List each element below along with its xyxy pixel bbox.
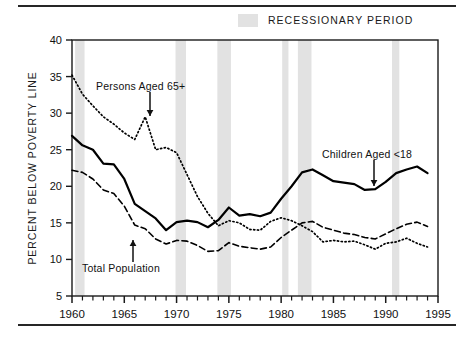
y-tick-label-25: 25 xyxy=(50,144,62,156)
recession-band-5 xyxy=(392,40,399,296)
y-tick-label-40: 40 xyxy=(50,34,62,46)
x-tick-label-1990: 1990 xyxy=(373,308,399,320)
annotation-children-under-18: Children Aged <18 xyxy=(322,148,412,160)
y-tick-label-20: 20 xyxy=(50,180,62,192)
y-tick-label-15: 15 xyxy=(50,217,62,229)
arrow-total-population-head xyxy=(130,240,137,246)
plot-canvas: 4035302520151051960196519701975198019851… xyxy=(0,0,474,339)
recession-band-2 xyxy=(217,40,231,296)
y-tick-label-35: 35 xyxy=(50,71,62,83)
recession-band-0 xyxy=(75,40,84,296)
y-tick-label-10: 10 xyxy=(50,253,62,265)
x-tick-label-1975: 1975 xyxy=(216,308,242,320)
x-tick-label-1965: 1965 xyxy=(111,308,137,320)
annotation-total-population: Total Population xyxy=(82,262,160,274)
y-tick-label-5: 5 xyxy=(56,290,62,302)
recession-band-4 xyxy=(298,40,312,296)
x-tick-label-1995: 1995 xyxy=(425,308,451,320)
x-tick-label-1980: 1980 xyxy=(268,308,294,320)
plot-frame xyxy=(72,40,438,296)
y-tick-label-30: 30 xyxy=(50,107,62,119)
arrow-children-under-18-head xyxy=(371,180,378,186)
arrow-persons-65-plus-head xyxy=(147,110,154,116)
x-tick-label-1970: 1970 xyxy=(164,308,190,320)
recession-band-3 xyxy=(282,40,288,296)
poverty-chart-figure: RECESSIONARY PERIOD PERCENT BELOW POVERT… xyxy=(0,0,474,339)
x-tick-label-1985: 1985 xyxy=(321,308,347,320)
x-tick-label-1960: 1960 xyxy=(59,308,85,320)
annotation-persons-65-plus: Persons Aged 65+ xyxy=(96,80,185,92)
